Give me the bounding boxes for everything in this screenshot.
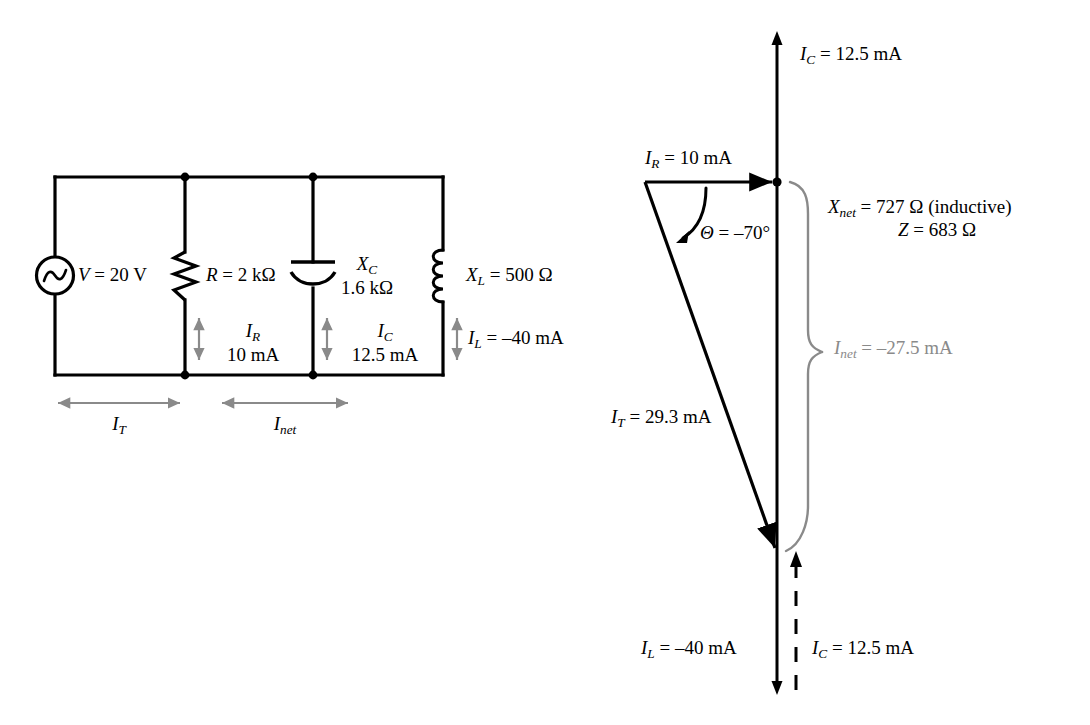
xnet-label: Xnet = 727 Ω (inductive)	[828, 196, 1012, 221]
node-dot-bottom-c	[309, 371, 318, 380]
z-label: Z = 683 Ω	[898, 219, 976, 240]
ic-bottom-label: IC = 12.5 mA	[812, 637, 914, 662]
diagram-vector-layer	[0, 0, 1090, 725]
inet-brace	[786, 182, 822, 551]
phasor-vertical-axis	[772, 31, 783, 695]
ir-branch-label: IR 10 mA	[227, 320, 279, 366]
ic-dashed-arrow	[790, 551, 802, 690]
ic-symbol: IC	[352, 320, 419, 344]
resistor-icon	[174, 252, 196, 300]
ir-phasor-label: IR = 10 mA	[645, 147, 732, 172]
capacitor-reactance-symbol: XC	[341, 253, 393, 277]
node-dot-top-c	[309, 173, 318, 182]
inductor-icon	[433, 250, 443, 302]
ic-value: 12.5 mA	[352, 344, 419, 366]
ir-value: 10 mA	[227, 344, 279, 366]
figure-canvas: V = 20 V R = 2 kΩ XC 1.6 kΩ XL = 500 Ω I…	[0, 0, 1090, 725]
it-phasor-label: IT = 29.3 mA	[611, 406, 711, 431]
capacitor-label: XC 1.6 kΩ	[341, 253, 393, 299]
inet-span-label: Inet	[274, 413, 297, 438]
resistor-label: R = 2 kΩ	[206, 264, 276, 285]
theta-label: Θ = –70°	[700, 222, 770, 243]
phasor-origin-dot	[772, 177, 781, 186]
axis-ic-label: IC = 12.5 mA	[800, 43, 902, 68]
il-branch-label: IL = –40 mA	[468, 327, 564, 352]
il-bottom-label: IL = –40 mA	[641, 637, 737, 662]
inet-phasor-label: Inet = –27.5 mA	[834, 337, 953, 362]
it-span-label: IT	[112, 413, 126, 438]
axis-arrow-up	[772, 31, 783, 45]
capacitor-icon	[291, 262, 335, 284]
node-dot-bottom-r	[181, 371, 190, 380]
ir-symbol: IR	[227, 320, 279, 344]
node-dot-top-r	[181, 173, 190, 182]
capacitor-reactance-value: 1.6 kΩ	[341, 277, 393, 299]
source-label: V = 20 V	[78, 264, 147, 285]
ic-branch-label: IC 12.5 mA	[352, 320, 419, 366]
axis-arrow-down	[772, 681, 783, 695]
ac-source-icon	[37, 257, 74, 294]
inductor-label: XL = 500 Ω	[466, 264, 553, 289]
